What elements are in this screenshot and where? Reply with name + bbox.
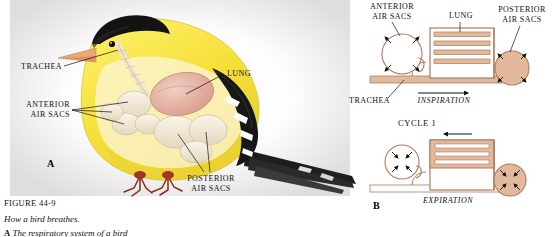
posterior-air-sac-expiration bbox=[494, 164, 526, 196]
label-inspiration: INSPIRATION bbox=[418, 96, 471, 105]
label-anterior-air-sacs: ANTERIOR AIR SACS bbox=[26, 100, 70, 119]
figure-title: How a bird breathes. bbox=[4, 214, 80, 224]
label-trachea: TRACHEA bbox=[21, 62, 62, 72]
schematic-label-lung: LUNG bbox=[449, 11, 473, 21]
panel-a-letter: A bbox=[47, 158, 54, 169]
panel-b-letter: B bbox=[373, 200, 380, 211]
schematic-label-trachea: TRACHEA bbox=[349, 96, 390, 106]
label-expiration: EXPIRATION bbox=[423, 196, 473, 205]
label-posterior-air-sacs: POSTERIOR AIR SACS bbox=[187, 174, 235, 193]
figure-part-a-caption: A The respiratory system of a bird bbox=[4, 228, 127, 237]
inspiration-diagram bbox=[370, 22, 529, 98]
label-lung: LUNG bbox=[227, 69, 251, 79]
expiration-diagram bbox=[370, 134, 526, 196]
figure-part-a-text: The respiratory system of a bird bbox=[12, 228, 127, 237]
anterior-air-sac-expiration bbox=[385, 145, 419, 179]
bird-eye bbox=[109, 41, 115, 47]
label-cycle-1: CYCLE 1 bbox=[398, 118, 436, 128]
schematic-label-posterior-air-sacs: POSTERIOR AIR SACS bbox=[498, 5, 546, 24]
figure-number: FIGURE 44-9 bbox=[4, 198, 56, 208]
figure-part-a-letter: A bbox=[4, 228, 10, 237]
panel-b-schematic: ANTERIOR AIR SACS LUNG POSTERIOR AIR SAC… bbox=[360, 0, 552, 237]
lung-inspiration bbox=[430, 28, 494, 78]
lung-expiration bbox=[430, 140, 494, 190]
schematic-label-anterior-air-sacs: ANTERIOR AIR SACS bbox=[370, 2, 414, 21]
